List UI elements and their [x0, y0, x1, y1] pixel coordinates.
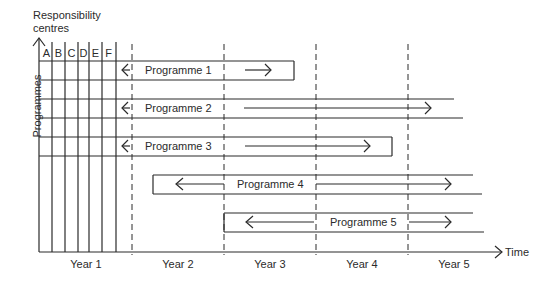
time-axis-label: Time [505, 246, 529, 258]
programme-3-label: Programme 3 [143, 140, 214, 152]
programme-2-label: Programme 2 [143, 102, 214, 114]
title-line-1: Responsibility [33, 9, 101, 22]
programme-4-bar [153, 175, 482, 194]
title-line-2: centres [33, 22, 101, 35]
programmes-axis-label: Programmes [31, 71, 43, 141]
programme-matrix-diagram [0, 0, 554, 285]
programme-1-label: Programme 1 [143, 64, 214, 76]
year-1-label: Year 1 [40, 258, 132, 270]
programme-3-bar [39, 137, 392, 156]
year-3-label: Year 3 [224, 258, 316, 270]
year-5-label: Year 5 [408, 258, 500, 270]
programme-4-label: Programme 4 [235, 178, 306, 190]
year-2-label: Year 2 [132, 258, 224, 270]
responsibility-centres-title: Responsibility centres [33, 9, 101, 35]
centre-label-b: B [52, 47, 65, 59]
year-4-label: Year 4 [316, 258, 408, 270]
centre-label-f: F [102, 47, 115, 59]
programme-5-label: Programme 5 [328, 216, 399, 228]
centre-label-e: E [89, 47, 102, 59]
